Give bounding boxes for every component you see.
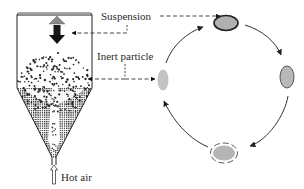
dried-coating-particle-bottom <box>213 146 235 161</box>
drying-particle-right <box>280 66 294 88</box>
coated-particle-top <box>214 16 238 31</box>
suspension-label: Suspension <box>101 11 151 22</box>
cycle-particles <box>158 16 295 164</box>
suspension-feed-arrow <box>49 16 65 44</box>
inert-particle-label: Inert particle <box>97 51 154 62</box>
hot-air-arrow-icon <box>51 165 58 184</box>
hot-air-label: Hot air <box>61 172 92 183</box>
suspension-leader <box>72 25 127 33</box>
inert-particle-leader <box>88 64 155 79</box>
inert-particle-left <box>158 70 169 91</box>
diagram-canvas <box>0 0 304 189</box>
cycle-arrows <box>164 25 288 147</box>
